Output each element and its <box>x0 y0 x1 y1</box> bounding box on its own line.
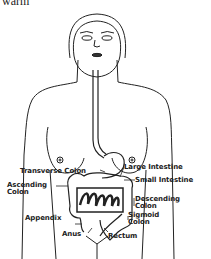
label-sigmoid-colon-line2: Colon <box>128 219 150 226</box>
esophagus <box>93 70 106 158</box>
label-small-intestine: Small Intestine <box>135 177 193 184</box>
label-large-intestine: Large Intestine <box>124 164 183 171</box>
label-anus: Anus <box>62 231 81 238</box>
label-transverse-colon: Transverse Colon <box>20 168 86 175</box>
label-appendix: Appendix <box>25 215 61 222</box>
small-intestine <box>77 188 123 212</box>
label-rectum: Rectum <box>108 233 137 240</box>
label-descending-colon-line2: Colon <box>135 203 157 210</box>
face <box>80 32 114 57</box>
label-ascending-colon-line2: Colon <box>7 189 29 196</box>
